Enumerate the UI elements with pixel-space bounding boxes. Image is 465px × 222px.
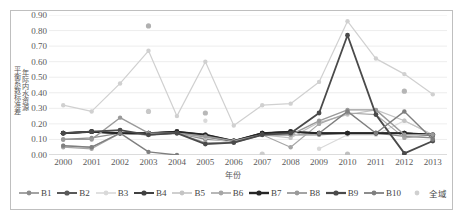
y-tick-label: 0.90 <box>19 10 47 20</box>
x-tick-label: 2002 <box>111 157 129 167</box>
legend-marker-icon <box>325 188 347 198</box>
legend-marker-icon <box>18 188 40 198</box>
legend-label: B1 <box>41 188 52 198</box>
legend-marker-icon <box>363 188 385 198</box>
x-tick-label: 2003 <box>140 157 158 167</box>
x-tick-label: 2005 <box>196 157 214 167</box>
plot-area <box>49 15 447 155</box>
x-tick-label: 2010 <box>339 157 357 167</box>
legend-label: B5 <box>194 188 205 198</box>
y-tick-label: 0.20 <box>19 119 47 129</box>
x-tick-label: 2001 <box>83 157 101 167</box>
y-tick-label: 0.50 <box>19 72 47 82</box>
x-tick-label: 2006 <box>225 157 243 167</box>
y-tick-label: 0.00 <box>19 150 47 160</box>
y-tick-label: 0.30 <box>19 103 47 113</box>
legend-marker-icon <box>133 188 155 198</box>
chart-legend: B1B2B3B4B5B6B7B8B9B10全域 <box>14 185 451 201</box>
x-tick-label: 2009 <box>310 157 328 167</box>
legend-item-B2[interactable]: B2 <box>56 188 90 198</box>
series-group <box>61 19 435 155</box>
x-tick-label: 2012 <box>395 157 413 167</box>
legend-label: B9 <box>348 188 359 198</box>
plot-svg <box>49 15 447 155</box>
legend-marker-icon <box>171 188 193 198</box>
legend-label: B7 <box>271 188 282 198</box>
legend-marker-icon <box>56 188 78 198</box>
legend-marker-icon <box>95 188 117 198</box>
y-tick-label: 0.70 <box>19 41 47 51</box>
y-tick-label: 0.60 <box>19 57 47 67</box>
x-axis-title: 年份 <box>0 169 465 180</box>
legend-item-B7[interactable]: B7 <box>248 188 282 198</box>
series-B5 <box>61 108 435 150</box>
y-tick-label: 0.80 <box>19 26 47 36</box>
x-tick-label: 2000 <box>54 157 72 167</box>
legend-label: B10 <box>386 188 401 198</box>
legend-item-B8[interactable]: B8 <box>286 188 320 198</box>
legend-marker-icon <box>406 188 428 198</box>
y-axis-tick-labels: 0.000.100.200.300.400.500.600.700.800.90 <box>14 15 47 155</box>
x-tick-label: 2013 <box>424 157 442 167</box>
legend-item-B9[interactable]: B9 <box>325 188 359 198</box>
legend-marker-icon <box>210 188 232 198</box>
legend-item-全域[interactable]: 全域 <box>406 187 447 199</box>
legend-label: B6 <box>233 188 244 198</box>
x-tick-label: 2007 <box>253 157 271 167</box>
x-tick-label: 2004 <box>168 157 186 167</box>
legend-label: B2 <box>79 188 90 198</box>
legend-item-B6[interactable]: B6 <box>210 188 244 198</box>
x-tick-label: 2008 <box>282 157 300 167</box>
y-tick-label: 0.10 <box>19 134 47 144</box>
y-tick-label: 0.40 <box>19 88 47 98</box>
legend-label: B4 <box>156 188 167 198</box>
legend-marker-icon <box>286 188 308 198</box>
legend-marker-icon <box>248 188 270 198</box>
x-tick-label: 2011 <box>367 157 385 167</box>
chart-screenshot: 平衡系数标准差 年际内水资源 0.000.100.200.300.400.500… <box>0 0 465 222</box>
legend-item-B10[interactable]: B10 <box>363 188 401 198</box>
legend-item-B5[interactable]: B5 <box>171 188 205 198</box>
legend-item-B1[interactable]: B1 <box>18 188 52 198</box>
legend-label: B3 <box>118 188 129 198</box>
legend-label: 全域 <box>429 187 447 199</box>
legend-label: B8 <box>309 188 320 198</box>
legend-item-B4[interactable]: B4 <box>133 188 167 198</box>
legend-item-B3[interactable]: B3 <box>95 188 129 198</box>
